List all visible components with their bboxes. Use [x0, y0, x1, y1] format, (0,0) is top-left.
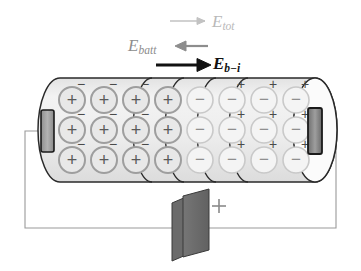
- battery-plate-front: [183, 189, 209, 257]
- charge-symbol: +: [131, 120, 142, 140]
- left-terminal: [41, 110, 54, 152]
- surface-charge-mark: +: [269, 76, 277, 92]
- charge-positive: +: [155, 147, 181, 173]
- label-e-b-i-symbol: E: [213, 54, 224, 73]
- etot-arrow: [170, 18, 205, 25]
- surface-charge-mark: +: [237, 136, 245, 152]
- label-e-batt-subscript: batt: [138, 44, 156, 57]
- surface-charge-mark: −: [109, 106, 117, 122]
- label-e-b-i-subscript: b−i: [224, 62, 240, 75]
- charge-symbol: −: [195, 120, 205, 139]
- charge-negative: −: [187, 117, 213, 143]
- surface-charge-mark: +: [237, 76, 245, 92]
- charge-symbol: +: [67, 120, 78, 140]
- label-e-batt-symbol: E: [128, 36, 138, 55]
- right-terminal: [308, 108, 322, 154]
- charge-negative: −: [187, 87, 213, 113]
- surface-charge-mark: +: [301, 76, 309, 92]
- left-terminal-plate: [41, 110, 54, 152]
- charge-symbol: −: [259, 90, 269, 109]
- surface-charge-mark: −: [141, 76, 149, 92]
- charge-symbol: −: [291, 120, 301, 139]
- charge-symbol: −: [259, 150, 269, 169]
- surface-charge-mark: −: [109, 136, 117, 152]
- surface-charge-mark: −: [141, 106, 149, 122]
- surface-charge-mark: −: [77, 76, 85, 92]
- charge-symbol: −: [195, 90, 205, 109]
- charge-symbol: −: [291, 150, 301, 169]
- charge-positive: +: [155, 87, 181, 113]
- label-e-tot-subscript: tot: [222, 20, 234, 33]
- charge-symbol: +: [163, 150, 174, 170]
- charge-symbol: +: [99, 90, 110, 110]
- charge-symbol: +: [99, 120, 110, 140]
- ebi-arrow: [156, 59, 211, 72]
- diagram-canvas: +−+−+−+−−+−+−++−+−+−+−−+−+−++−+−+−+−−+−+…: [0, 0, 361, 271]
- surface-charge-mark: −: [77, 106, 85, 122]
- surface-charge-mark: −: [141, 136, 149, 152]
- surface-charge-mark: +: [269, 136, 277, 152]
- charge-symbol: +: [163, 90, 174, 110]
- charge-symbol: −: [259, 120, 269, 139]
- label-e-b-i: Eb−i: [213, 55, 240, 75]
- charge-symbol: −: [227, 90, 237, 109]
- charge-positive: +: [155, 117, 181, 143]
- charge-negative: −: [187, 147, 213, 173]
- charge-symbol: +: [131, 150, 142, 170]
- surface-charge-mark: −: [109, 76, 117, 92]
- physics-circuit-diagram: +−+−+−+−−+−+−++−+−+−+−−+−+−++−+−+−+−−+−+…: [0, 0, 361, 271]
- surface-charge-mark: +: [237, 106, 245, 122]
- charge-symbol: +: [67, 90, 78, 110]
- charge-symbol: +: [163, 120, 174, 140]
- charge-symbol: −: [227, 120, 237, 139]
- field-arrows: [156, 18, 211, 72]
- label-e-tot: Etot: [212, 13, 235, 33]
- charge-symbol: +: [99, 150, 110, 170]
- ebatt-arrow: [175, 41, 208, 51]
- surface-charge-mark: −: [77, 136, 85, 152]
- surface-charge-mark: +: [269, 106, 277, 122]
- charge-symbol: −: [227, 150, 237, 169]
- right-terminal-plate: [308, 108, 322, 154]
- charge-symbol: −: [291, 90, 301, 109]
- battery-element: [172, 189, 209, 261]
- battery-polarity-icon: [212, 199, 226, 213]
- charge-symbol: +: [131, 90, 142, 110]
- charge-symbol: +: [67, 150, 78, 170]
- label-e-batt: Ebatt: [128, 37, 156, 57]
- label-e-tot-symbol: E: [212, 12, 222, 31]
- charge-symbol: −: [195, 150, 205, 169]
